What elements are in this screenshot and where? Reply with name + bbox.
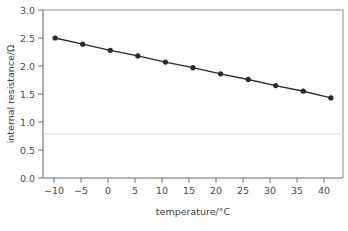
y-tick-label: 2.5 [20, 33, 35, 44]
data-point [108, 48, 113, 53]
x-tick-label: 30 [264, 185, 276, 196]
data-point [53, 35, 58, 40]
x-tick-label: 0 [105, 185, 111, 196]
data-point [135, 53, 140, 58]
data-point [190, 65, 195, 70]
y-tick-label: 2.0 [20, 61, 35, 72]
line-chart: 3.0 2.5 2.0 1.5 1.0 0.5 0.0 −10 −5 0 [0, 0, 348, 231]
x-tick-label: 10 [156, 185, 168, 196]
x-tick-label: 15 [183, 185, 195, 196]
data-point [273, 83, 278, 88]
y-tick-label: 1.5 [20, 89, 35, 100]
data-point [80, 42, 85, 47]
data-point [163, 59, 168, 64]
y-axis-title: internal resistance/Ω [5, 45, 16, 144]
y-tick-label: 0.0 [20, 173, 35, 184]
data-point [301, 89, 306, 94]
y-tick-label: 0.5 [20, 145, 35, 156]
chart-background [0, 0, 348, 231]
x-tick-label: −10 [44, 185, 64, 196]
data-point [328, 95, 333, 100]
x-tick-label: 20 [210, 185, 222, 196]
x-tick-label: 25 [237, 185, 249, 196]
x-tick-label: −5 [74, 185, 88, 196]
x-tick-label: 40 [318, 185, 330, 196]
chart-container: 3.0 2.5 2.0 1.5 1.0 0.5 0.0 −10 −5 0 [0, 0, 348, 231]
data-point [246, 77, 251, 82]
y-tick-label: 1.0 [20, 117, 35, 128]
x-axis-title: temperature/°C [156, 206, 231, 217]
x-tick-label: 35 [291, 185, 303, 196]
x-tick-label: 5 [132, 185, 138, 196]
data-point [218, 71, 223, 76]
y-tick-label: 3.0 [20, 5, 35, 16]
